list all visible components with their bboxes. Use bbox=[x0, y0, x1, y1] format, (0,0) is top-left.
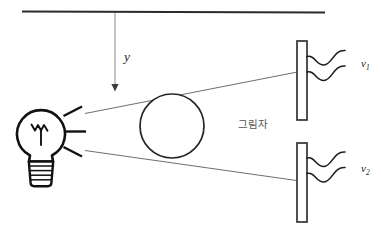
wave-top-first bbox=[307, 50, 345, 65]
bulb-light-rays bbox=[64, 107, 87, 157]
v1-label: v1 bbox=[361, 57, 370, 72]
diagram-canvas: y bbox=[0, 0, 381, 234]
wave-top-second bbox=[307, 66, 345, 81]
optics-shadow-diagram: y bbox=[0, 0, 381, 234]
bulb-base bbox=[29, 162, 53, 187]
wave-lines-top bbox=[307, 50, 345, 80]
screen-bottom bbox=[297, 143, 307, 222]
y-drop-arrow bbox=[111, 13, 118, 92]
light-bulb bbox=[17, 110, 65, 186]
screen-top bbox=[297, 41, 307, 120]
shadow-ray-lower bbox=[85, 151, 300, 182]
light-ray-upper bbox=[64, 107, 83, 117]
shadow-region-label: 그림자 bbox=[238, 118, 268, 130]
ceiling-rail bbox=[22, 12, 325, 13]
wave-lines-bottom bbox=[307, 152, 345, 182]
y-arrow-head bbox=[111, 84, 118, 92]
v2-label: v2 bbox=[361, 162, 370, 177]
y-distance-label: y bbox=[122, 49, 130, 64]
occluding-sphere bbox=[140, 94, 204, 158]
wave-bottom-first bbox=[307, 152, 345, 167]
light-ray-lower bbox=[64, 147, 83, 157]
wave-bottom-second bbox=[307, 167, 345, 182]
